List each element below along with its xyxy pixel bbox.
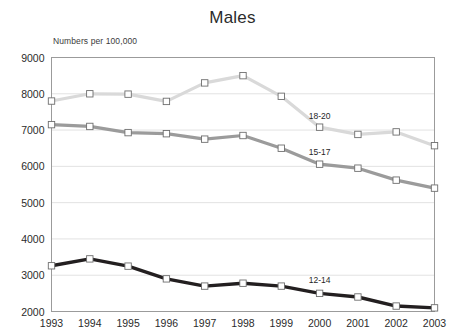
series-12-14 bbox=[48, 256, 437, 311]
line-chart-plot: 20003000400050006000700080009000 1993199… bbox=[0, 0, 465, 335]
x-axis-tick-label: 1998 bbox=[231, 317, 255, 329]
data-point-marker bbox=[316, 124, 322, 130]
x-axis-tick-label: 2003 bbox=[423, 317, 447, 329]
data-point-marker bbox=[355, 294, 361, 300]
series-label-12-14: 12-14 bbox=[309, 275, 331, 285]
data-point-marker bbox=[355, 131, 361, 137]
data-point-marker bbox=[125, 129, 131, 135]
x-axis-tick-label: 1994 bbox=[78, 317, 102, 329]
data-point-marker bbox=[240, 280, 246, 286]
data-point-marker bbox=[393, 303, 399, 309]
data-point-marker bbox=[48, 263, 54, 269]
y-axis-tick-label: 3000 bbox=[21, 269, 45, 281]
data-point-marker bbox=[278, 93, 284, 99]
data-point-marker bbox=[393, 177, 399, 183]
plot-frame bbox=[52, 58, 435, 312]
y-axis-tick-label: 7000 bbox=[21, 124, 45, 136]
data-point-marker bbox=[431, 305, 437, 311]
data-point-marker bbox=[48, 121, 54, 127]
data-point-marker bbox=[125, 91, 131, 97]
data-point-marker bbox=[240, 132, 246, 138]
data-point-marker bbox=[316, 161, 322, 167]
data-point-marker bbox=[163, 131, 169, 137]
chart-container: Males Numbers per 100,000 20003000400050… bbox=[0, 0, 465, 335]
series-label-18-20: 18-20 bbox=[309, 111, 331, 121]
x-axis-tick-label: 2001 bbox=[346, 317, 370, 329]
x-axis-tick-label: 1999 bbox=[270, 317, 294, 329]
data-point-marker bbox=[240, 72, 246, 78]
y-axis-tick-label: 5000 bbox=[21, 197, 45, 209]
data-point-marker bbox=[202, 80, 208, 86]
x-axis-tick-label: 1996 bbox=[155, 317, 179, 329]
data-point-marker bbox=[87, 256, 93, 262]
data-point-marker bbox=[87, 123, 93, 129]
series-inline-labels: 18-2015-1712-14 bbox=[309, 111, 331, 285]
y-axis-tick-label: 4000 bbox=[21, 233, 45, 245]
data-point-marker bbox=[87, 91, 93, 97]
data-point-marker bbox=[278, 283, 284, 289]
x-axis-tick-labels: 1993199419951996199719981999200020012002… bbox=[40, 317, 447, 329]
gridlines-group bbox=[52, 94, 435, 275]
data-point-marker bbox=[48, 98, 54, 104]
data-point-marker bbox=[278, 145, 284, 151]
y-axis-tick-labels: 20003000400050006000700080009000 bbox=[21, 52, 45, 318]
data-point-marker bbox=[163, 276, 169, 282]
x-axis-tick-label: 1997 bbox=[193, 317, 217, 329]
y-axis-tick-label: 8000 bbox=[21, 88, 45, 100]
data-point-marker bbox=[355, 165, 361, 171]
x-axis-tick-label: 1993 bbox=[40, 317, 64, 329]
y-axis-tick-label: 6000 bbox=[21, 160, 45, 172]
plot-area-border bbox=[52, 58, 435, 312]
data-point-marker bbox=[431, 185, 437, 191]
x-axis-tick-label: 2002 bbox=[385, 317, 409, 329]
x-axis-tick-label: 1995 bbox=[116, 317, 140, 329]
data-point-marker bbox=[393, 129, 399, 135]
y-axis-tick-label: 9000 bbox=[21, 52, 45, 64]
data-point-marker bbox=[202, 283, 208, 289]
data-point-marker bbox=[125, 263, 131, 269]
data-point-marker bbox=[202, 136, 208, 142]
series-label-15-17: 15-17 bbox=[309, 147, 331, 157]
x-axis-tick-label: 2000 bbox=[308, 317, 332, 329]
data-point-marker bbox=[163, 98, 169, 104]
data-point-marker bbox=[431, 142, 437, 148]
data-point-marker bbox=[316, 290, 322, 296]
